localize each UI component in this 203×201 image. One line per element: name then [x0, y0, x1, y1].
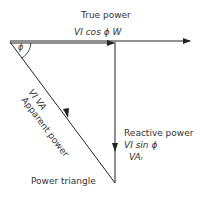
reactive-power-formula: VI sin ϕ — [124, 140, 157, 150]
reactive-power-arrowhead — [112, 143, 118, 152]
reactive-power-title: Reactive power — [124, 128, 193, 138]
true-power-formula: VI cos ϕ W — [74, 27, 121, 37]
apparent-power-vector — [10, 42, 115, 183]
phi-angle-arc — [22, 43, 31, 58]
phi-angle-label: ϕ — [18, 43, 23, 53]
reactive-power-unit: VAᵣ — [129, 152, 143, 162]
true-power-title: True power — [81, 10, 131, 20]
figure-caption: Power triangle — [31, 176, 96, 186]
